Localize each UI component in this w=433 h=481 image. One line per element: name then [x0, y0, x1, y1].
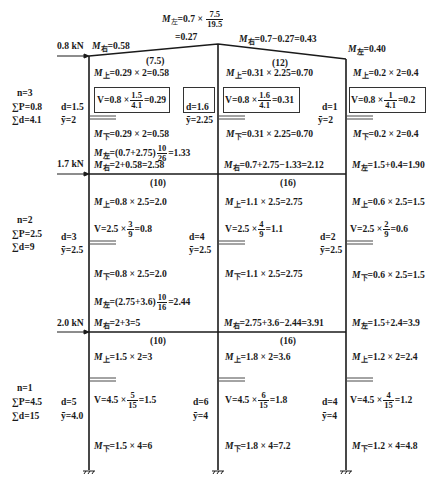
column-inflection-height: ȳ=2: [61, 114, 76, 125]
column-stiffness: d=5: [61, 396, 77, 407]
column-shear: V=2.5 ×39=0.8: [94, 220, 152, 239]
roof-moment-result: =0.27: [175, 31, 197, 42]
column-bottom-moment: M下=0.31 × 2.25=0.70: [226, 128, 313, 141]
story-sum-load: ∑P=4.5: [12, 396, 42, 407]
column-bottom-moment: M下=1.8 × 4=7.2: [225, 440, 291, 453]
beam-stiffness-label: (16): [280, 335, 296, 346]
column-inflection-height: ȳ=4: [193, 410, 208, 421]
column-shear: V=4.5 ×415=1.2: [350, 391, 412, 410]
joint-left-moment: M左=(2.75+3.6)1016=2.44: [94, 293, 190, 312]
beam-stiffness-label: (10): [150, 177, 166, 188]
column-top-moment: M上=0.31 × 2.25=0.70: [226, 67, 313, 80]
column-stiffness: d=3: [61, 231, 77, 242]
beam-stiffness-label: (16): [280, 177, 296, 188]
story-count: n=2: [17, 214, 33, 225]
column-bottom-moment: M下=0.6 × 2.5=1.5: [352, 269, 425, 282]
column-top-moment: M上=0.29 × 2=0.58: [94, 67, 169, 80]
column-shear: V=0.8 ×1.54.1=0.29: [97, 91, 166, 110]
column-shear: V=2.5 ×49=1.1: [225, 220, 283, 239]
column-bottom-moment: M下=0.2 × 2=0.4: [353, 128, 419, 141]
column-inflection-height: ȳ=2.5: [320, 244, 342, 255]
story-sum-load: ∑P=0.8: [12, 101, 42, 112]
column-shear: V=0.8 ×1.64.1=0.31: [225, 91, 294, 110]
column-inflection-height: ȳ=4.0: [61, 410, 83, 421]
column-top-moment: M上=1.2 × 2=2.4: [352, 351, 418, 364]
load-label-floor2: 1.7 kN: [57, 158, 84, 169]
floor1-right-joint-moment: M左=1.5+2.4=3.9: [352, 317, 420, 330]
column-top-moment: M上=1.5 × 2=3: [94, 351, 152, 364]
column-shear: V=4.5 ×615=1.8: [225, 391, 287, 410]
column-stiffness: d=1.6: [186, 101, 209, 112]
roof-mid-joint-moment: M右=0.7−0.27=0.43: [239, 33, 317, 46]
column-bottom-moment: M下=0.29 × 2=0.58: [94, 128, 169, 141]
load-label-roof: 0.8 kN: [57, 40, 84, 51]
column-inflection-height: ȳ=4: [322, 410, 337, 421]
column-stiffness: d=1: [322, 101, 338, 112]
roof-left-joint-moment: M右=0.58: [92, 40, 130, 53]
floor1-mid-joint-moment: M右=2.75+3.6−2.44=3.91: [224, 317, 324, 330]
column-top-moment: M上=1.8 × 2=3.6: [225, 351, 291, 364]
story-count: n=1: [17, 382, 33, 393]
column-bottom-moment: M下=0.8 × 2.5=2.0: [94, 268, 167, 281]
beam-stiffness-label: (7.5): [146, 55, 164, 66]
column-top-moment: M上=1.1 × 2.5=2.75: [225, 196, 303, 209]
fraction: 7.519.5: [206, 10, 223, 29]
column-stiffness: d=6: [193, 396, 209, 407]
column-shear: V=2.5 ×29=0.6: [350, 220, 408, 239]
story-sum-load: ∑P=2.5: [12, 228, 42, 239]
column-shear: V=0.8 ×14.1=0.2: [351, 91, 415, 110]
column-inflection-height: ȳ=2.25: [186, 114, 213, 125]
column-bottom-moment: M下=1.1 × 2.5=2.75: [225, 268, 303, 281]
floor2-right-joint-moment: M左=1.5+0.4=1.90: [352, 159, 425, 172]
column-inflection-height: ȳ=2.5: [189, 244, 211, 255]
beam-stiffness-label: (10): [150, 335, 166, 346]
column-bottom-moment: M下=1.2 × 4=4.8: [352, 440, 418, 453]
column-stiffness: d=4: [189, 231, 205, 242]
column-inflection-height: ȳ=2: [318, 114, 333, 125]
column-bottom-moment: M下=1.5 × 4=6: [94, 440, 152, 453]
column-inflection-height: ȳ=2.5: [61, 244, 83, 255]
column-top-moment: M上=0.8 × 2.5=2.0: [94, 196, 167, 209]
roof-right-joint-moment: M左=0.40: [348, 43, 386, 56]
floor1-left-joint-moment: M右=2+3=5: [94, 317, 140, 330]
column-top-moment: M上=0.6 × 2.5=1.5: [352, 196, 425, 209]
story-sum-stiffness: ∑d=9: [12, 241, 34, 252]
story-sum-stiffness: ∑d=4.1: [12, 114, 42, 125]
column-top-moment: M上=0.2 × 2=0.4: [353, 67, 419, 80]
floor2-left-joint-moment: M右=2+0.58=2.58: [94, 159, 164, 172]
roof-moment-formula: M左=0.7 × 7.519.5: [162, 10, 224, 29]
story-count: n=3: [17, 87, 33, 98]
column-shear: V=4.5 ×515=1.5: [94, 391, 156, 410]
floor2-mid-joint-moment: M右=0.7+2.75−1.33=2.12: [224, 159, 324, 172]
load-label-floor1: 2.0 kN: [57, 317, 84, 328]
column-stiffness: d=1.5: [61, 101, 84, 112]
column-stiffness: d=2: [320, 231, 336, 242]
story-sum-stiffness: ∑d=15: [12, 410, 39, 421]
column-stiffness: d=4: [322, 396, 338, 407]
